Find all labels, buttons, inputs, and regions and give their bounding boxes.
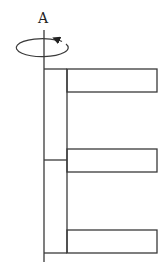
e-shape-rotation-diagram: A xyxy=(0,0,168,275)
middle-arm xyxy=(67,149,157,172)
spine xyxy=(44,69,67,253)
top-arm xyxy=(67,69,157,92)
axis-label: A xyxy=(37,10,49,26)
rotation-arrow-icon xyxy=(16,39,68,57)
bottom-arm xyxy=(67,230,157,253)
